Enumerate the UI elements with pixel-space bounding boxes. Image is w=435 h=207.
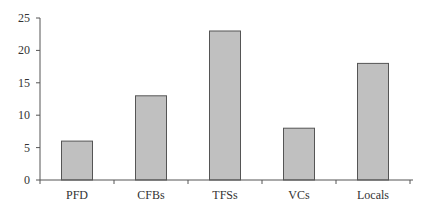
x-tick-label: PFD — [40, 189, 114, 201]
bar-tfss — [210, 31, 241, 180]
y-tick-label: 20 — [2, 44, 30, 56]
bar-locals — [358, 63, 389, 180]
y-tick-label: 15 — [2, 77, 30, 89]
bar-pfd — [62, 141, 93, 180]
y-tick-label: 25 — [2, 12, 30, 24]
x-tick-label: Locals — [336, 189, 410, 201]
y-tick-label: 0 — [2, 174, 30, 186]
x-tick-label: TFSs — [188, 189, 262, 201]
x-tick-label: CFBs — [114, 189, 188, 201]
y-tick-label: 5 — [2, 142, 30, 154]
bar-cfbs — [136, 96, 167, 180]
y-tick-label: 10 — [2, 109, 30, 121]
bar-chart: 0510152025PFDCFBsTFSsVCsLocals — [0, 0, 435, 207]
bar-vcs — [284, 128, 315, 180]
chart-canvas — [0, 0, 435, 207]
x-tick-label: VCs — [262, 189, 336, 201]
